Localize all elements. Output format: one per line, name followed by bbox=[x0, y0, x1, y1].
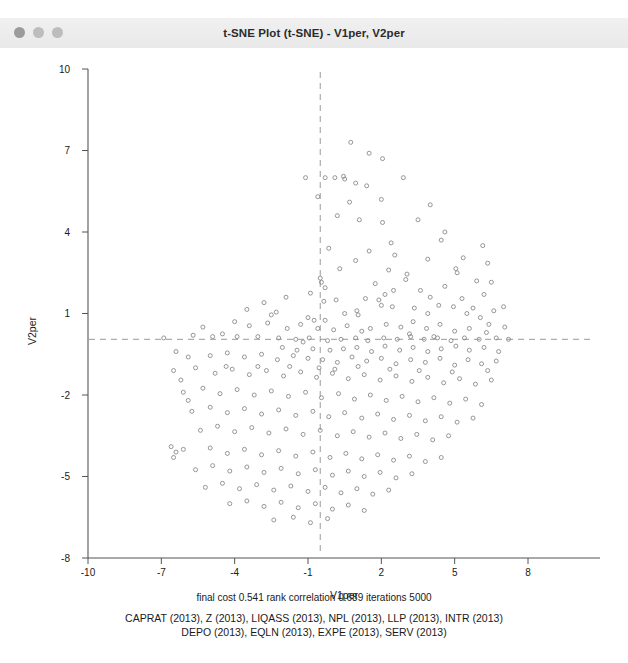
data-point-marker bbox=[464, 397, 468, 401]
y-tick-label: 1 bbox=[64, 308, 70, 319]
data-point-marker bbox=[376, 453, 380, 457]
data-point-marker bbox=[447, 434, 451, 438]
data-point-marker bbox=[186, 355, 190, 359]
data-point-marker bbox=[458, 377, 462, 381]
scatter-plot-canvas: -10-7-4-1258 -8-5-214710 V1per V2per fin… bbox=[0, 48, 628, 663]
data-point-marker bbox=[471, 306, 475, 310]
data-point-marker bbox=[466, 358, 470, 362]
data-point-marker bbox=[208, 446, 212, 450]
data-point-marker bbox=[439, 415, 443, 419]
data-point-marker bbox=[247, 324, 251, 328]
data-point-marker bbox=[330, 507, 334, 511]
data-point-marker bbox=[296, 506, 300, 510]
data-point-marker bbox=[198, 428, 202, 432]
data-point-marker bbox=[280, 345, 284, 349]
data-point-marker bbox=[255, 483, 259, 487]
data-point-marker bbox=[346, 503, 350, 507]
data-point-marker bbox=[264, 369, 268, 373]
data-point-marker bbox=[186, 398, 190, 402]
data-point-marker bbox=[489, 378, 493, 382]
data-point-marker bbox=[245, 465, 249, 469]
data-point-marker bbox=[381, 157, 385, 161]
data-point-marker bbox=[350, 355, 354, 359]
data-point-marker bbox=[355, 487, 359, 491]
data-point-marker bbox=[318, 276, 322, 280]
data-point-marker bbox=[383, 292, 387, 296]
data-point-marker bbox=[368, 393, 372, 397]
data-point-marker bbox=[382, 336, 386, 340]
data-point-marker bbox=[230, 367, 234, 371]
data-point-marker bbox=[443, 284, 447, 288]
tsne-scatter-svg: -10-7-4-1258 -8-5-214710 V1per V2per fin… bbox=[0, 48, 628, 663]
data-point-marker bbox=[486, 369, 490, 373]
data-point-marker bbox=[482, 345, 486, 349]
data-point-marker bbox=[467, 348, 471, 352]
data-point-marker bbox=[321, 358, 325, 362]
data-point-marker bbox=[489, 280, 493, 284]
data-point-marker bbox=[301, 432, 305, 436]
data-point-marker bbox=[438, 356, 442, 360]
data-point-marker bbox=[497, 350, 501, 354]
data-point-marker bbox=[492, 309, 496, 313]
data-point-marker bbox=[208, 405, 212, 409]
data-point-marker bbox=[238, 487, 242, 491]
data-point-marker bbox=[269, 313, 273, 317]
data-point-marker bbox=[306, 356, 310, 360]
data-point-marker bbox=[301, 340, 305, 344]
data-point-marker bbox=[277, 408, 281, 412]
data-point-marker bbox=[365, 184, 369, 188]
y-tick-label: 10 bbox=[59, 64, 71, 75]
data-point-marker bbox=[426, 257, 430, 261]
data-point-marker bbox=[323, 318, 327, 322]
data-point-marker bbox=[337, 392, 341, 396]
data-point-marker bbox=[439, 455, 443, 459]
data-point-marker bbox=[404, 278, 408, 282]
data-point-marker bbox=[503, 325, 507, 329]
data-point-marker bbox=[390, 305, 394, 309]
data-point-marker bbox=[363, 297, 367, 301]
y-tick-label: 7 bbox=[64, 145, 70, 156]
data-point-marker bbox=[394, 362, 398, 366]
data-point-marker bbox=[362, 508, 366, 512]
data-point-marker bbox=[394, 374, 398, 378]
data-point-marker bbox=[392, 288, 396, 292]
data-point-marker bbox=[256, 335, 260, 339]
data-point-marker bbox=[299, 370, 303, 374]
data-point-marker bbox=[392, 417, 396, 421]
data-point-marker bbox=[437, 303, 441, 307]
data-point-marker bbox=[388, 367, 392, 371]
data-point-marker bbox=[260, 453, 264, 457]
y-axis-title: V2per bbox=[26, 316, 38, 345]
data-point-marker bbox=[260, 412, 264, 416]
data-point-marker bbox=[266, 321, 270, 325]
data-point-marker bbox=[478, 316, 482, 320]
data-point-marker bbox=[269, 389, 273, 393]
data-point-marker bbox=[343, 312, 347, 316]
data-point-marker bbox=[482, 292, 486, 296]
data-point-marker bbox=[451, 305, 455, 309]
data-point-marker bbox=[379, 356, 383, 360]
reference-lines bbox=[89, 72, 592, 556]
data-point-marker bbox=[368, 326, 372, 330]
data-point-marker bbox=[410, 379, 414, 383]
data-point-marker bbox=[383, 431, 387, 435]
data-point-marker bbox=[242, 355, 246, 359]
data-point-marker bbox=[235, 388, 239, 392]
data-point-marker bbox=[443, 230, 447, 234]
data-point-marker bbox=[343, 411, 347, 415]
data-point-marker bbox=[322, 299, 326, 303]
data-point-marker bbox=[417, 369, 421, 373]
data-point-marker bbox=[294, 337, 298, 341]
data-point-marker bbox=[360, 416, 364, 420]
data-point-marker bbox=[294, 454, 298, 458]
data-point-marker bbox=[339, 491, 343, 495]
data-point-marker bbox=[308, 291, 312, 295]
data-point-marker bbox=[475, 279, 479, 283]
data-point-marker bbox=[334, 298, 338, 302]
data-point-marker bbox=[389, 241, 393, 245]
data-point-marker bbox=[289, 484, 293, 488]
data-point-marker bbox=[494, 359, 498, 363]
data-point-marker bbox=[442, 381, 446, 385]
data-point-marker bbox=[338, 267, 342, 271]
data-point-marker bbox=[399, 436, 403, 440]
